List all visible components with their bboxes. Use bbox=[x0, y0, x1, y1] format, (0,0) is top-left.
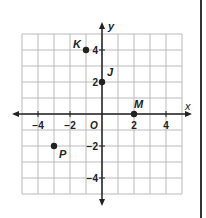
y-tick-label: −4 bbox=[87, 173, 99, 184]
y-axis-down-arrow-icon bbox=[99, 199, 105, 206]
page-divider bbox=[200, 0, 202, 218]
x-tick-label: 4 bbox=[163, 120, 169, 131]
coordinate-plane: xyO−4−22442−2−4KJMP bbox=[0, 0, 206, 218]
x-axis-left-arrow-icon bbox=[12, 111, 19, 117]
y-axis-label: y bbox=[107, 20, 115, 32]
point-p bbox=[51, 143, 57, 149]
y-tick-label: 2 bbox=[92, 77, 98, 88]
y-tick-label: −2 bbox=[87, 141, 99, 152]
x-axis-label: x bbox=[184, 100, 191, 112]
point-j bbox=[99, 79, 105, 85]
origin-label: O bbox=[90, 120, 98, 131]
y-axis-up-arrow-icon bbox=[99, 22, 105, 29]
point-label-p: P bbox=[59, 148, 67, 160]
point-label-j: J bbox=[107, 66, 114, 78]
x-tick-label: −2 bbox=[64, 120, 76, 131]
x-tick-label: −4 bbox=[32, 120, 44, 131]
x-tick-label: 2 bbox=[131, 120, 137, 131]
point-m bbox=[131, 111, 137, 117]
point-label-k: K bbox=[73, 38, 82, 50]
point-k bbox=[83, 47, 89, 53]
y-tick-label: 4 bbox=[92, 45, 98, 56]
point-label-m: M bbox=[134, 98, 144, 110]
